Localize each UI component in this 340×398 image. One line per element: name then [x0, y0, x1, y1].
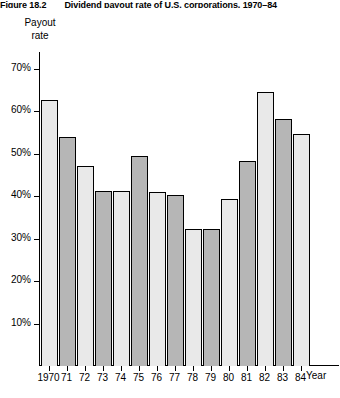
x-axis-tick: [283, 366, 284, 371]
x-axis-tick: [157, 366, 158, 371]
bar: [77, 166, 94, 366]
x-axis-tick: [211, 366, 212, 371]
x-axis-tick-label: 84: [295, 372, 306, 383]
bar: [59, 137, 76, 366]
figure-caption: Figure 18.2Dividend payout rate of U.S. …: [0, 0, 340, 8]
bar: [203, 229, 220, 366]
x-axis-tick: [175, 366, 176, 371]
bar: [185, 229, 202, 366]
figure-container: Figure 18.2Dividend payout rate of U.S. …: [0, 0, 340, 398]
x-axis-tick: [193, 366, 194, 371]
bar: [113, 191, 130, 366]
x-axis-tick: [247, 366, 248, 371]
x-axis-tick-label: 79: [205, 372, 216, 383]
y-axis-tick-label: 70%: [11, 62, 31, 73]
figure-number: Figure 18.2: [0, 0, 46, 8]
x-axis-tick-label: 1970: [37, 372, 59, 383]
x-axis-tick: [49, 366, 50, 371]
bar: [275, 119, 292, 366]
y-axis-tick-label: 50%: [11, 147, 31, 158]
x-axis-tick: [103, 366, 104, 371]
x-axis-tick: [121, 366, 122, 371]
x-axis-tick-label: 76: [151, 372, 162, 383]
y-axis-tick-label: 60%: [11, 104, 31, 115]
bar: [149, 192, 166, 366]
figure-title: Dividend payout rate of U.S. corporation…: [64, 0, 277, 8]
bar: [293, 134, 310, 366]
bar: [239, 161, 256, 366]
x-axis-tick: [229, 366, 230, 371]
x-axis-tick-label: 78: [187, 372, 198, 383]
x-axis-tick-label: 80: [223, 372, 234, 383]
bar: [167, 195, 184, 366]
x-axis-tick: [301, 366, 302, 371]
y-axis-title-line1: Payout: [24, 17, 55, 28]
x-axis-tick-label: 82: [259, 372, 270, 383]
x-axis-tick: [67, 366, 68, 371]
bar: [257, 92, 274, 366]
bar: [221, 199, 238, 366]
x-axis-tick-label: 81: [241, 372, 252, 383]
x-axis-tick-label: 77: [169, 372, 180, 383]
x-axis-tick-label: 71: [61, 372, 72, 383]
y-axis-tick-label: 10%: [11, 317, 31, 328]
x-axis-tick: [139, 366, 140, 371]
x-axis-tick: [265, 366, 266, 371]
y-axis-title-line2: rate: [14, 29, 66, 42]
y-axis-title: Payout rate: [14, 16, 66, 42]
x-axis-title: Year: [306, 370, 326, 381]
x-axis-tick-label: 72: [79, 372, 90, 383]
bar-series: [40, 52, 339, 366]
x-axis-tick: [85, 366, 86, 371]
x-axis-tick-label: 83: [277, 372, 288, 383]
x-axis-tick-label: 73: [97, 372, 108, 383]
plot-area: 10%20%30%40%50%60%70% 197071727374757677…: [39, 52, 339, 366]
y-axis-tick-label: 30%: [11, 232, 31, 243]
bar: [95, 191, 112, 366]
bar: [131, 156, 148, 366]
y-axis-tick-label: 40%: [11, 189, 31, 200]
y-axis-tick-label: 20%: [11, 274, 31, 285]
bar: [41, 100, 58, 366]
x-axis-tick-label: 75: [133, 372, 144, 383]
x-axis-tick-label: 74: [115, 372, 126, 383]
